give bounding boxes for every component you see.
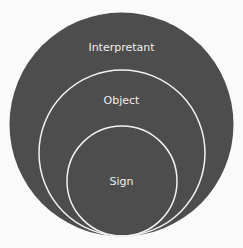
- sign-label: Sign: [0, 175, 243, 188]
- object-label: Object: [0, 94, 243, 107]
- interpretant-label: Interpretant: [0, 41, 243, 54]
- nested-circles-diagram: [0, 0, 243, 248]
